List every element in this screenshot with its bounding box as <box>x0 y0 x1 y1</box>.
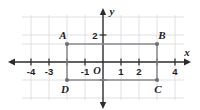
x-tick-label-pos4: 4 <box>172 66 178 77</box>
vertex-dot-a <box>65 42 69 46</box>
y-axis <box>100 8 106 109</box>
coordinate-plane-figure: -4 -3 -1 1 2 4 2 O x y A B C D <box>0 0 200 110</box>
vertex-dot-b <box>155 42 159 46</box>
x-tick-label-neg4: -4 <box>27 66 36 77</box>
x-tick-label-pos1: 1 <box>118 66 124 77</box>
vertex-label-c: C <box>154 83 162 95</box>
y-axis-arrow-up <box>100 8 106 15</box>
y-axis-arrow-down <box>100 102 106 109</box>
x-tick-label-pos2: 2 <box>136 66 141 77</box>
y-tick-label-pos2: 2 <box>92 30 97 41</box>
vertex-label-b: B <box>157 29 165 41</box>
x-axis-arrow-left <box>8 59 15 66</box>
vertex-label-a: A <box>58 29 66 41</box>
coordinate-plane-svg: -4 -3 -1 1 2 4 2 O x y A B C D <box>0 0 200 110</box>
x-axis-arrow-right <box>184 59 191 66</box>
vertex-dot-d <box>65 78 69 82</box>
vertex-dot-c <box>155 78 159 82</box>
x-tick-label-neg1: -1 <box>81 66 90 77</box>
x-tick-label-neg3: -3 <box>45 66 53 77</box>
x-axis-label: x <box>183 46 190 58</box>
origin-label: O <box>93 65 101 76</box>
vertex-label-d: D <box>60 83 69 95</box>
y-axis-label: y <box>108 5 115 17</box>
